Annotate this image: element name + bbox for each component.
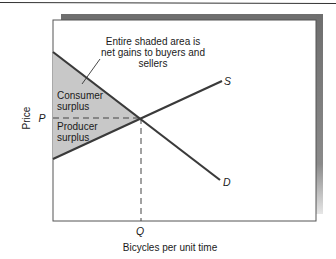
- x-axis-title: Bicycles per unit time: [123, 242, 218, 253]
- quantity-tick-label: Q: [136, 225, 144, 237]
- producer-surplus-label-1: Producer: [57, 121, 98, 132]
- demand-label: D: [223, 176, 231, 188]
- annotation-line-1: Entire shaded area is: [106, 36, 201, 47]
- annotation-line-3: sellers: [139, 58, 168, 69]
- consumer-surplus-label-1: Consumer: [57, 90, 104, 101]
- price-tick-label: P: [38, 112, 45, 124]
- top-rule: [0, 3, 336, 4]
- supply-label: S: [224, 75, 231, 87]
- producer-surplus-label-2: surplus: [57, 132, 89, 143]
- consumer-surplus-label-2: surplus: [57, 101, 89, 112]
- frame-shadow-right: [316, 14, 323, 214]
- y-axis-title: Price: [21, 106, 32, 129]
- annotation-line-2: net gains to buyers and: [101, 47, 205, 58]
- surplus-diagram: Entire shaded area is net gains to buyer…: [0, 0, 336, 259]
